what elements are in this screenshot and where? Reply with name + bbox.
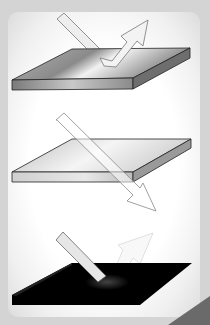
absorption-glow [85, 274, 129, 290]
absorption-panel [12, 232, 192, 305]
metal-plate-front [12, 78, 133, 90]
reflection-panel [12, 13, 190, 90]
corner-decoration [168, 296, 210, 325]
transmission-panel [12, 113, 191, 211]
light-diagram [0, 0, 210, 325]
